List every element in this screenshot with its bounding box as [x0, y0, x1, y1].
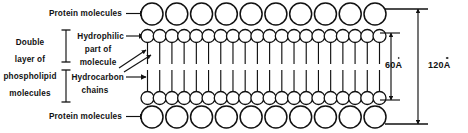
membrane-circle — [290, 106, 312, 128]
membrane-circle — [165, 30, 178, 43]
membrane-circle — [265, 3, 287, 25]
membrane-circle — [364, 106, 386, 128]
membrane-circle — [214, 30, 227, 43]
membrane-circle — [361, 92, 374, 105]
membrane-circle — [373, 30, 386, 43]
membrane-circle — [288, 92, 301, 105]
membrane-circle — [364, 3, 386, 25]
membrane-circle — [141, 3, 163, 25]
membrane-circle — [263, 92, 276, 105]
membrane-circle — [265, 106, 287, 128]
membrane-circle — [191, 3, 213, 25]
membrane-circle — [190, 92, 203, 105]
membrane-circle — [275, 92, 288, 105]
protein-row-bottom — [141, 106, 386, 128]
membrane-circle — [349, 30, 362, 43]
membrane-circle — [178, 92, 191, 105]
membrane-circle — [336, 30, 349, 43]
membrane-circle — [141, 30, 154, 43]
membrane-circle — [239, 92, 252, 105]
hydrophilic-diagonal-leader — [119, 50, 146, 68]
membrane-circle — [166, 3, 188, 25]
membrane-circle — [215, 106, 237, 128]
membrane-circle — [373, 92, 386, 105]
membrane-circle — [153, 30, 166, 43]
membrane-circle — [361, 30, 374, 43]
membrane-circle — [251, 30, 264, 43]
membrane-circle — [300, 30, 313, 43]
membrane-circle — [312, 92, 325, 105]
membrane-circle — [339, 106, 361, 128]
membrane-circle — [226, 30, 239, 43]
membrane-circle — [214, 92, 227, 105]
membrane-circle — [336, 92, 349, 105]
phospholipid-head-row-top — [141, 30, 386, 43]
membrane-circle — [178, 30, 191, 43]
membrane-circle — [202, 92, 215, 105]
membrane-circle — [312, 30, 325, 43]
diagram-vector-layer — [0, 0, 468, 133]
protein-row-top — [141, 3, 386, 25]
membrane-circle — [141, 106, 163, 128]
membrane-circle — [165, 92, 178, 105]
membrane-circle — [324, 30, 337, 43]
membrane-circle — [251, 92, 264, 105]
inner-dimension-arrow — [380, 33, 400, 100]
hydrocarbon-chain-group — [148, 42, 380, 93]
membrane-circle — [263, 30, 276, 43]
membrane-circle — [290, 3, 312, 25]
membrane-circle — [275, 30, 288, 43]
membrane-circle — [226, 92, 239, 105]
membrane-circle — [191, 106, 213, 128]
membrane-circle — [300, 92, 313, 105]
membrane-circle — [339, 3, 361, 25]
membrane-circle — [190, 30, 203, 43]
membrane-circle — [153, 92, 166, 105]
membrane-circle — [166, 106, 188, 128]
hydrophilic-range-bracket — [62, 30, 71, 62]
membrane-circle — [314, 3, 336, 25]
membrane-circle — [202, 30, 215, 43]
membrane-circle — [240, 3, 262, 25]
membrane-circle — [240, 106, 262, 128]
membrane-circle — [288, 30, 301, 43]
membrane-circle — [314, 106, 336, 128]
membrane-diagram-figure: Protein molecules Protein molecules Doub… — [0, 0, 468, 133]
membrane-structure — [141, 3, 386, 128]
hydrocarbon-range-bracket — [62, 70, 71, 102]
membrane-circle — [349, 92, 362, 105]
membrane-circle — [141, 92, 154, 105]
membrane-circle — [239, 30, 252, 43]
membrane-circle — [215, 3, 237, 25]
phospholipid-head-row-bottom — [141, 92, 386, 105]
membrane-circle — [324, 92, 337, 105]
